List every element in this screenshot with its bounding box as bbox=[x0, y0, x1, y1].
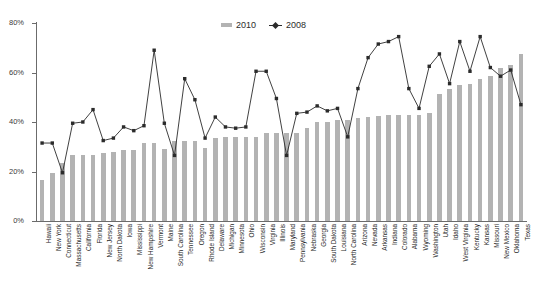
x-tick-label: West Virginia bbox=[462, 224, 469, 261]
x-tick-label: Georgia bbox=[320, 224, 327, 247]
line-marker bbox=[203, 136, 206, 139]
x-tick-label: Ohio bbox=[248, 224, 255, 238]
line-marker bbox=[193, 98, 196, 101]
x-tick-label: Arizona bbox=[361, 224, 368, 246]
y-tick: 20% bbox=[0, 168, 32, 176]
x-tick-label: Minnesota bbox=[238, 224, 245, 254]
x-tick-label: Louisiana bbox=[340, 224, 347, 251]
line-marker bbox=[336, 107, 339, 110]
x-tick-label: Virginia bbox=[269, 224, 276, 245]
x-tick-label: Hawaii bbox=[45, 224, 52, 243]
line-marker bbox=[224, 125, 227, 128]
x-tick-label: Nevada bbox=[371, 224, 378, 246]
line-marker bbox=[132, 129, 135, 132]
line-marker bbox=[51, 141, 54, 144]
line-marker bbox=[163, 122, 166, 125]
x-tick-label: Vermont bbox=[157, 224, 164, 248]
y-tick-label: 20% bbox=[9, 168, 24, 176]
x-tick-label: Massachusetts bbox=[75, 224, 82, 267]
line-marker bbox=[407, 87, 410, 90]
x-tick-label: Utah bbox=[442, 224, 449, 238]
line-marker bbox=[387, 40, 390, 43]
x-tick-label: Delaware bbox=[218, 224, 225, 251]
y-tick: 0% bbox=[0, 217, 32, 225]
x-tick-label: South Carolina bbox=[177, 224, 184, 266]
x-tick-label: Maine bbox=[167, 224, 174, 241]
line-marker bbox=[61, 171, 64, 174]
x-tick-label: Maryland bbox=[289, 224, 296, 250]
line-marker bbox=[428, 65, 431, 68]
line-marker bbox=[489, 66, 492, 69]
line-marker bbox=[295, 112, 298, 115]
x-tick-label: Michigan bbox=[228, 224, 235, 250]
y-tick-mark bbox=[32, 172, 36, 173]
line-marker bbox=[326, 109, 329, 112]
x-tick-label: Indiana bbox=[391, 224, 398, 245]
y-tick-mark bbox=[32, 73, 36, 74]
x-tick-label: Missouri bbox=[493, 224, 500, 248]
line-marker bbox=[91, 108, 94, 111]
y-tick-mark bbox=[32, 122, 36, 123]
x-tick-label: New Mexico bbox=[503, 224, 510, 259]
x-tick-label: Florida bbox=[96, 224, 103, 244]
line-marker bbox=[366, 56, 369, 59]
line-marker bbox=[305, 110, 308, 113]
x-tick-label: Nebraska bbox=[310, 224, 317, 251]
y-tick-mark bbox=[32, 23, 36, 24]
x-tick-label: Colorado bbox=[401, 224, 408, 250]
x-tick-label: Connecticut bbox=[65, 224, 72, 258]
x-tick-label: Pennsylvania bbox=[299, 224, 306, 262]
y-tick: 80% bbox=[0, 19, 32, 27]
line-marker bbox=[417, 107, 420, 110]
line-marker bbox=[478, 35, 481, 38]
line-marker bbox=[40, 141, 43, 144]
x-tick-label: California bbox=[85, 224, 92, 251]
x-tick-label: Alabama bbox=[411, 224, 418, 249]
line-marker bbox=[81, 120, 84, 123]
line-marker bbox=[509, 68, 512, 71]
x-axis-labels: HawaiiNew YorkConnecticutMassachusettsCa… bbox=[37, 224, 526, 304]
line-marker bbox=[122, 125, 125, 128]
plot-area bbox=[37, 23, 526, 221]
line-marker bbox=[438, 52, 441, 55]
y-tick-label: 0% bbox=[13, 217, 24, 225]
x-tick-label: Illinois bbox=[279, 224, 286, 242]
line-marker bbox=[183, 77, 186, 80]
line-marker bbox=[254, 70, 257, 73]
line-marker bbox=[519, 103, 522, 106]
line-marker bbox=[275, 97, 278, 100]
line-marker bbox=[234, 126, 237, 129]
line-path bbox=[42, 37, 521, 173]
x-tick-label: New York bbox=[55, 224, 62, 251]
line-marker bbox=[112, 136, 115, 139]
x-tick-label: South Dakota bbox=[330, 224, 337, 263]
line-marker bbox=[499, 75, 502, 78]
chart-container: 2010 2008 0%20%40%60%80% HawaiiNew YorkC… bbox=[0, 0, 533, 305]
x-tick-label: Washington bbox=[432, 224, 439, 258]
line-marker bbox=[285, 154, 288, 157]
x-tick-label: Wyoming bbox=[422, 224, 429, 251]
line-marker bbox=[173, 154, 176, 157]
y-tick: 60% bbox=[0, 69, 32, 77]
x-tick-label: Rhode Island bbox=[208, 224, 215, 262]
line-marker bbox=[458, 40, 461, 43]
line-series-2008 bbox=[37, 23, 526, 221]
x-tick-label: Wisconsin bbox=[259, 224, 266, 253]
line-marker bbox=[468, 70, 471, 73]
x-tick-label: New Hampshire bbox=[147, 224, 154, 269]
x-tick-label: Idaho bbox=[452, 224, 459, 240]
line-marker bbox=[448, 82, 451, 85]
x-tick-label: Oregon bbox=[198, 224, 205, 245]
line-marker bbox=[346, 135, 349, 138]
y-tick: 40% bbox=[0, 118, 32, 126]
line-marker bbox=[397, 35, 400, 38]
x-tick-label: New Jersey bbox=[106, 224, 113, 257]
y-tick-label: 80% bbox=[9, 19, 24, 27]
x-tick-label: Kentucky bbox=[473, 224, 480, 250]
line-marker bbox=[244, 125, 247, 128]
line-marker bbox=[214, 115, 217, 118]
x-tick-label: North Carolina bbox=[350, 224, 357, 265]
line-marker bbox=[356, 87, 359, 90]
x-tick-label: North Dakota bbox=[116, 224, 123, 262]
y-tick-mark bbox=[32, 221, 36, 222]
